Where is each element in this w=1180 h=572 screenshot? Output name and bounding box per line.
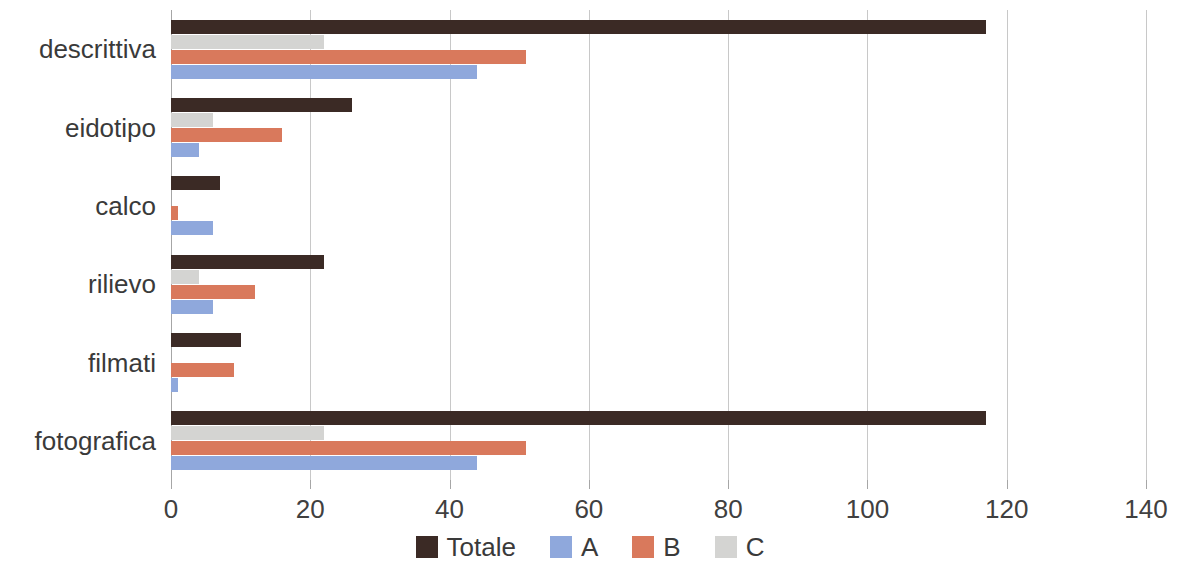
bar-rilievo-Totale: [171, 255, 324, 269]
category-label-calco: calco: [95, 190, 156, 221]
category-label-filmati: filmati: [88, 347, 156, 378]
category-label-fotografica: fotografica: [35, 425, 156, 456]
bar-calco-B: [171, 206, 178, 220]
gridline: [310, 10, 311, 480]
tick-mark: [171, 480, 172, 489]
tick-mark: [1007, 480, 1008, 489]
bar-descrittiva-A: [171, 65, 477, 79]
x-tick-label: 120: [985, 494, 1028, 525]
bar-fotografica-B: [171, 441, 526, 455]
bar-eidotipo-A: [171, 143, 199, 157]
bar-rilievo-C: [171, 270, 199, 284]
category-label-rilievo: rilievo: [88, 269, 156, 300]
tick-mark: [589, 480, 590, 489]
gridline: [728, 10, 729, 480]
x-tick-label: 0: [164, 494, 178, 525]
bar-calco-Totale: [171, 176, 220, 190]
bar-descrittiva-C: [171, 35, 324, 49]
x-tick-label: 20: [296, 494, 325, 525]
bar-calco-A: [171, 221, 213, 235]
legend-label-A: A: [581, 534, 598, 560]
tick-mark: [867, 480, 868, 489]
bar-descrittiva-B: [171, 50, 526, 64]
x-tick-label: 80: [714, 494, 743, 525]
legend-item-B: B: [632, 534, 680, 560]
legend-item-A: A: [550, 534, 598, 560]
gridline: [867, 10, 868, 480]
legend-item-Totale: Totale: [416, 534, 516, 560]
legend-item-C: C: [715, 534, 765, 560]
plot-area: [171, 10, 1146, 480]
tick-mark: [728, 480, 729, 489]
bar-filmati-A: [171, 378, 178, 392]
bar-rilievo-B: [171, 285, 255, 299]
x-tick-label: 40: [435, 494, 464, 525]
tick-mark: [450, 480, 451, 489]
legend-label-C: C: [746, 534, 765, 560]
legend-swatch-Totale: [416, 536, 438, 558]
bar-eidotipo-C: [171, 113, 213, 127]
x-tick-label: 140: [1124, 494, 1167, 525]
legend-label-Totale: Totale: [447, 534, 516, 560]
chart-legend: TotaleABC: [0, 534, 1180, 560]
bar-descrittiva-Totale: [171, 20, 986, 34]
legend-swatch-C: [715, 536, 737, 558]
bar-fotografica-Totale: [171, 411, 986, 425]
bar-fotografica-A: [171, 456, 477, 470]
bar-eidotipo-Totale: [171, 98, 352, 112]
x-tick-label: 100: [846, 494, 889, 525]
legend-label-B: B: [663, 534, 680, 560]
legend-swatch-A: [550, 536, 572, 558]
gridline: [1007, 10, 1008, 480]
category-label-eidotipo: eidotipo: [65, 112, 156, 143]
bar-chart: 020406080100120140 descrittivaeidotipoca…: [0, 0, 1180, 572]
tick-mark: [310, 480, 311, 489]
bar-rilievo-A: [171, 300, 213, 314]
legend-swatch-B: [632, 536, 654, 558]
tick-mark: [1146, 480, 1147, 489]
category-label-descrittiva: descrittiva: [39, 34, 156, 65]
bar-fotografica-C: [171, 426, 324, 440]
bar-filmati-B: [171, 363, 234, 377]
gridline: [1146, 10, 1147, 480]
x-tick-label: 60: [574, 494, 603, 525]
gridline: [589, 10, 590, 480]
gridline: [450, 10, 451, 480]
bar-filmati-Totale: [171, 333, 241, 347]
value-axis-line: [171, 10, 172, 480]
bar-eidotipo-B: [171, 128, 282, 142]
